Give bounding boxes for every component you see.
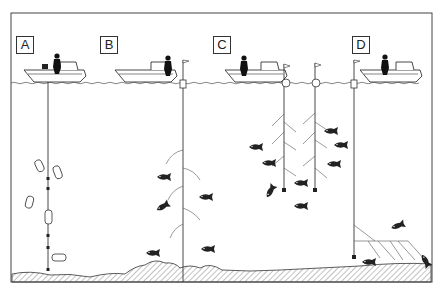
panel-c-scene bbox=[225, 55, 348, 210]
fishing-methods-illustration bbox=[0, 0, 444, 294]
water-surface bbox=[11, 82, 419, 84]
panel-a-scene bbox=[24, 53, 86, 271]
frame bbox=[11, 13, 432, 282]
panel-d-scene bbox=[351, 54, 432, 269]
panel-b-scene bbox=[115, 55, 215, 282]
